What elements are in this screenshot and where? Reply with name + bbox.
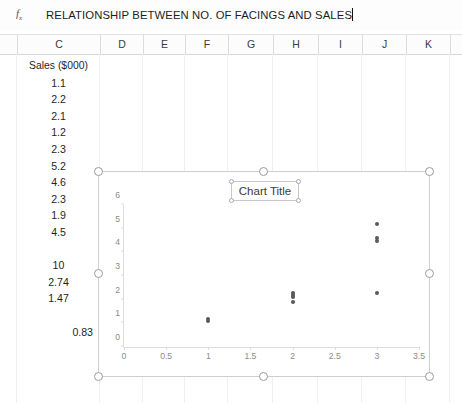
y-tick-5: 5	[115, 214, 120, 224]
formula-input-value: RELATIONSHIP BETWEEN NO. OF FACINGS AND …	[46, 9, 352, 21]
chart-handle-middle-left[interactable]	[94, 269, 103, 278]
x-tick-7: 3.5	[413, 351, 425, 361]
x-tick-2: 1	[206, 351, 211, 361]
x-tick-4: 2	[290, 351, 295, 361]
x-tick-3: 1.5	[244, 351, 256, 361]
x-tick-6: 3	[374, 351, 379, 361]
cell-c-7[interactable]: 4.6	[17, 174, 100, 191]
cell-c-13[interactable]: 1.47	[17, 290, 100, 307]
column-header-i[interactable]: I	[319, 34, 363, 54]
x-tick-0: 0	[122, 351, 127, 361]
title-handle-top-right[interactable]	[296, 179, 301, 184]
column-header-g[interactable]: G	[229, 34, 274, 54]
chart-handle-middle-right[interactable]	[425, 269, 434, 278]
column-header-k[interactable]: K	[407, 34, 451, 54]
y-tick-2: 2	[115, 285, 120, 295]
cell-c-11[interactable]: 10	[17, 257, 100, 274]
cell-c-8[interactable]: 2.3	[17, 191, 100, 208]
cell-c-9[interactable]: 1.9	[17, 207, 100, 224]
formula-input[interactable]: RELATIONSHIP BETWEEN NO. OF FACINGS AND …	[38, 4, 462, 26]
cell-c-12[interactable]: 2.74	[17, 274, 100, 291]
data-point[interactable]	[206, 317, 210, 321]
y-tick-4: 4	[115, 237, 120, 247]
cell-c-header[interactable]: Sales ($000)	[17, 58, 100, 75]
data-point[interactable]	[291, 300, 295, 304]
column-header-row: C D E F G H I J K	[0, 34, 462, 55]
column-header-j[interactable]: J	[363, 34, 407, 54]
chart-title-label: Chart Title	[239, 185, 291, 197]
chart-handle-top-left[interactable]	[94, 167, 103, 176]
column-header-h[interactable]: H	[274, 34, 319, 54]
insert-function-icon[interactable]: fx	[0, 7, 38, 22]
plot-area: 0 1 2 3 4 5 6 0 0.5 1 1.5 2 2.5 3 3.5	[123, 205, 419, 348]
column-header-d[interactable]: D	[101, 34, 144, 54]
column-header-f[interactable]: F	[186, 34, 229, 54]
formula-bar: fx RELATIONSHIP BETWEEN NO. OF FACINGS A…	[0, 0, 462, 30]
column-header-c[interactable]: C	[18, 34, 101, 54]
data-point[interactable]	[291, 295, 295, 299]
cell-c-2[interactable]: 2.2	[17, 91, 100, 108]
y-tick-1: 1	[115, 308, 120, 318]
column-header-spacer	[0, 34, 18, 54]
y-tick-0: 0	[115, 332, 120, 342]
embedded-chart[interactable]: Chart Title 0 1 2 3 4 5 6 0 0.5 1 1.5 2 …	[98, 171, 430, 377]
cell-c-6[interactable]: 5.2	[17, 158, 100, 175]
data-point[interactable]	[375, 239, 379, 243]
title-handle-top-left[interactable]	[229, 179, 234, 184]
chart-handle-top-right[interactable]	[425, 167, 434, 176]
cell-c-10[interactable]: 4.5	[17, 224, 100, 241]
y-tick-3: 3	[115, 261, 120, 271]
data-point[interactable]	[291, 291, 295, 295]
x-tick-1: 0.5	[160, 351, 172, 361]
chart-handle-top-center[interactable]	[259, 167, 268, 176]
cell-c-14[interactable]: 0.83	[17, 324, 100, 341]
title-handle-bottom-right[interactable]	[296, 198, 301, 203]
chart-handle-bottom-right[interactable]	[425, 372, 434, 381]
title-handle-bottom-left[interactable]	[229, 198, 234, 203]
cell-c-5[interactable]: 2.3	[17, 141, 100, 158]
chart-handle-bottom-left[interactable]	[94, 372, 103, 381]
x-tick-5: 2.5	[329, 351, 341, 361]
chart-handle-bottom-center[interactable]	[259, 372, 268, 381]
chart-title[interactable]: Chart Title	[231, 181, 299, 201]
column-header-e[interactable]: E	[144, 34, 186, 54]
cell-c-blank-1[interactable]	[17, 241, 100, 258]
data-point[interactable]	[375, 291, 379, 295]
sheet-column-c: Sales ($000) 1.1 2.2 2.1 1.2 2.3 5.2 4.6…	[17, 58, 100, 340]
cell-c-blank-2[interactable]	[17, 307, 100, 324]
y-tick-6: 6	[115, 190, 120, 200]
cell-c-4[interactable]: 1.2	[17, 124, 100, 141]
cell-c-3[interactable]: 2.1	[17, 108, 100, 125]
cell-c-1[interactable]: 1.1	[17, 75, 100, 92]
text-caret	[352, 8, 353, 21]
data-point[interactable]	[375, 222, 379, 226]
